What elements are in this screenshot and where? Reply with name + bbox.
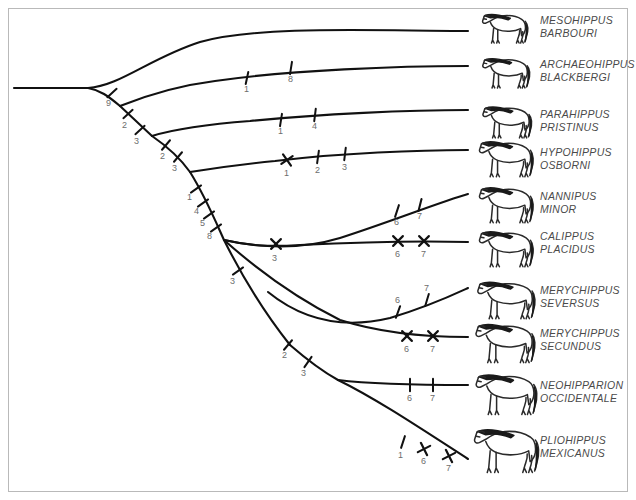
tick-label-6: 6 — [421, 456, 426, 466]
tick-label-9: 9 — [106, 98, 111, 108]
tick-label-3: 3 — [301, 368, 306, 378]
tick-mark-9 — [107, 89, 116, 97]
tick-label-6: 6 — [407, 393, 412, 403]
taxon-genus: PARAHIPPUS — [540, 108, 610, 121]
tick-label-8: 8 — [288, 74, 293, 84]
taxon-genus: CALIPPUS — [540, 230, 595, 243]
tick-marks — [107, 62, 455, 462]
taxon-species: OSBORNI — [540, 159, 612, 172]
tick-label-3: 3 — [134, 136, 139, 146]
taxon-label-calippus: CALIPPUSPLACIDUS — [540, 230, 595, 255]
horse-icon-calippus — [479, 232, 533, 267]
horse-icon-pliohippus — [475, 430, 539, 473]
branch-neohipparion — [338, 380, 468, 385]
tick-label-8: 8 — [207, 231, 212, 241]
branch-trunk-6 — [290, 345, 338, 380]
horse-icon-merychippus_s — [478, 282, 535, 318]
cross-mark-6 — [402, 331, 412, 341]
taxon-label-parahippus: PARAHIPPUSPRISTINUS — [540, 108, 610, 133]
horse-icon-hypohippus — [479, 142, 533, 177]
tick-label-2: 2 — [282, 350, 287, 360]
tick-label-5: 5 — [200, 218, 205, 228]
taxon-species: PLACIDUS — [540, 243, 595, 256]
tick-label-7: 7 — [417, 211, 422, 221]
branch-trunk-5 — [224, 240, 290, 345]
horse-icon-parahippus — [483, 107, 532, 138]
tick-label-1: 1 — [187, 192, 192, 202]
taxon-species: MEXICANUS — [540, 447, 606, 460]
cross-mark-6 — [418, 443, 430, 455]
branch-pliohippus — [338, 380, 468, 459]
branch-lines — [14, 30, 468, 459]
horse-icon-mesohippus — [483, 14, 528, 42]
tick-label-6: 6 — [395, 249, 400, 259]
taxon-genus: HYPOHIPPUS — [540, 146, 612, 159]
tick-label-1: 1 — [398, 450, 403, 460]
branch-trunk-3 — [152, 136, 190, 172]
horse-icon-merychippus_sec — [476, 325, 535, 363]
taxon-label-hypohippus: HYPOHIPPUSOSBORNI — [540, 146, 612, 171]
branch-merychippus-s — [268, 288, 468, 323]
horse-silhouettes — [475, 14, 539, 472]
taxon-label-merychippus_sec: MERYCHIPPUSSECUNDUS — [540, 327, 620, 352]
branch-nannipus — [224, 194, 468, 247]
tick-label-4: 4 — [312, 121, 317, 131]
branch-calippus — [224, 240, 468, 246]
branch-archaeohippus — [120, 66, 468, 106]
taxon-genus: MERYCHIPPUS — [540, 327, 620, 340]
tick-label-7: 7 — [446, 463, 451, 473]
tick-label-1: 1 — [278, 126, 283, 136]
tick-label-3: 3 — [230, 276, 235, 286]
tick-label-7: 7 — [430, 344, 435, 354]
taxon-species: SEVERSUS — [540, 297, 620, 310]
cross-mark-7 — [443, 450, 455, 462]
tick-label-6: 6 — [404, 344, 409, 354]
taxon-genus: NANNIPUS — [540, 190, 597, 203]
tick-mark-3 — [135, 126, 144, 134]
horse-icon-neohipparion — [476, 375, 537, 415]
taxon-genus: PLIOHIPPUS — [540, 434, 606, 447]
taxon-genus: MESOHIPPUS — [540, 14, 613, 27]
tick-label-3: 3 — [342, 162, 347, 172]
tick-label-3: 3 — [172, 163, 177, 173]
tick-mark-3 — [344, 148, 346, 160]
taxon-label-neohipparion: NEOHIPPARIONOCCIDENTALE — [540, 379, 623, 404]
tick-label-2: 2 — [122, 120, 127, 130]
tick-label-6: 6 — [394, 217, 399, 227]
taxon-species: MINOR — [540, 203, 597, 216]
tick-label-7: 7 — [424, 283, 429, 293]
tick-label-7: 7 — [430, 393, 435, 403]
taxon-label-mesohippus: MESOHIPPUSBARBOURI — [540, 14, 613, 39]
tick-label-2: 2 — [160, 151, 165, 161]
branch-parahippus — [152, 110, 468, 136]
taxon-species: BLACKBERGI — [540, 71, 635, 84]
tick-label-1: 1 — [244, 84, 249, 94]
taxon-label-pliohippus: PLIOHIPPUSMEXICANUS — [540, 434, 606, 459]
taxon-species: BARBOURI — [540, 27, 613, 40]
taxon-genus: NEOHIPPARION — [540, 379, 623, 392]
tick-mark-1 — [401, 436, 405, 448]
tick-mark-1 — [280, 114, 282, 126]
tick-label-3: 3 — [272, 253, 277, 263]
tick-label-2: 2 — [315, 165, 320, 175]
branch-mesohippus — [88, 30, 468, 88]
branch-hypohippus — [190, 150, 468, 172]
taxon-genus: ARCHAEOHIPPUS — [540, 58, 635, 71]
tick-label-4: 4 — [194, 206, 199, 216]
taxon-species: OCCIDENTALE — [540, 392, 623, 405]
taxon-genus: MERYCHIPPUS — [540, 284, 620, 297]
horse-icon-archaeohippus — [483, 59, 530, 88]
taxon-species: PRISTINUS — [540, 121, 610, 134]
cladogram-figure: 923231458323181412367367676767167 MESOHI… — [0, 0, 636, 500]
taxon-label-archaeohippus: ARCHAEOHIPPUSBLACKBERGI — [540, 58, 635, 83]
tick-mark-2 — [317, 151, 319, 163]
tick-label-1: 1 — [284, 168, 289, 178]
horse-icon-nannipus — [479, 188, 533, 223]
tick-mark-6 — [395, 205, 399, 217]
tick-label-7: 7 — [421, 249, 426, 259]
taxon-label-nannipus: NANNIPUSMINOR — [540, 190, 597, 215]
taxon-label-merychippus_s: MERYCHIPPUSSEVERSUS — [540, 284, 620, 309]
tick-mark-4 — [314, 109, 316, 121]
tick-label-6: 6 — [395, 295, 400, 305]
taxon-species: SECUNDUS — [540, 340, 620, 353]
